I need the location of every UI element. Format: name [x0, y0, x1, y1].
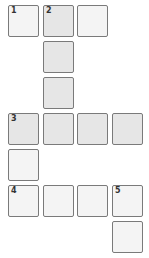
crossword-cell[interactable]	[43, 113, 74, 145]
clue-number: 1	[11, 6, 17, 16]
crossword-cell[interactable]	[77, 113, 108, 145]
clue-number: 2	[46, 6, 52, 16]
crossword-cell[interactable]: 1	[8, 5, 39, 37]
crossword-cell[interactable]	[112, 113, 143, 145]
crossword-cell[interactable]	[77, 5, 108, 37]
crossword-cell[interactable]	[43, 41, 74, 73]
clue-number: 4	[11, 186, 17, 196]
crossword-cell[interactable]	[8, 149, 39, 181]
crossword-cell[interactable]	[77, 185, 108, 217]
clue-number: 5	[115, 186, 121, 196]
crossword-cell[interactable]: 5	[112, 185, 143, 217]
crossword-cell[interactable]: 2	[43, 5, 74, 37]
crossword-cell[interactable]: 3	[8, 113, 39, 145]
crossword-cell[interactable]	[43, 185, 74, 217]
crossword-grid: 12345	[0, 0, 149, 258]
clue-number: 3	[11, 114, 17, 124]
crossword-cell[interactable]	[112, 221, 143, 253]
crossword-cell[interactable]	[43, 77, 74, 109]
crossword-cell[interactable]: 4	[8, 185, 39, 217]
